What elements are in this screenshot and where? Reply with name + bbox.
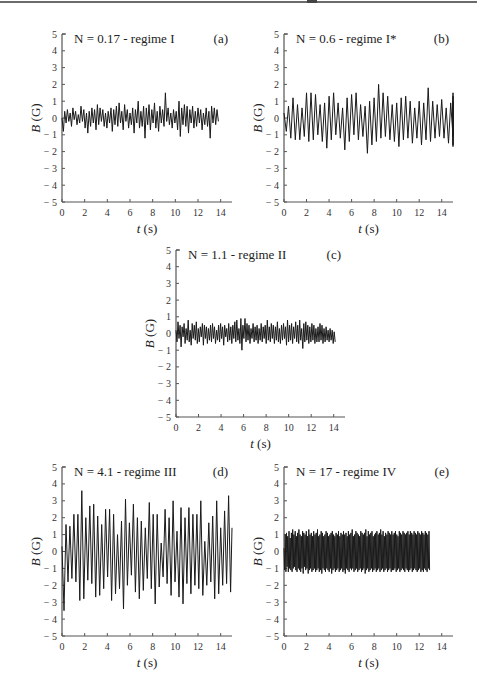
chart-panel-d: 543210− 1− 2− 3− 4− 502468101214t (s)B (…: [22, 457, 242, 676]
x-tick-label: 12: [193, 207, 203, 218]
panel-label: (e): [435, 464, 449, 479]
x-tick-label: 2: [304, 207, 309, 218]
y-tick-label: − 3: [158, 378, 171, 389]
y-tick-label: 2: [274, 79, 279, 90]
y-tick-label: 5: [274, 462, 279, 473]
y-tick-label: 1: [166, 311, 171, 322]
y-tick-label: − 4: [44, 180, 57, 191]
regime-annotation: N = 0.17 - regime I: [74, 31, 174, 46]
y-tick-label: 4: [52, 478, 57, 489]
x-tick-label: 6: [241, 422, 246, 433]
x-tick-label: 0: [60, 641, 65, 652]
regime-annotation: N = 1.1 - regime II: [188, 247, 286, 262]
x-tick-label: 8: [150, 207, 155, 218]
x-tick-label: 8: [264, 422, 269, 433]
x-tick-label: 12: [414, 207, 424, 218]
y-tick-label: 2: [52, 512, 57, 523]
x-tick-label: 0: [60, 207, 65, 218]
y-tick-label: 3: [166, 278, 171, 289]
signal-line: [62, 491, 232, 611]
panel-label: (c): [327, 247, 341, 262]
y-tick-label: − 4: [266, 614, 279, 625]
x-tick-label: 0: [282, 641, 287, 652]
y-tick-label: − 3: [266, 597, 279, 608]
chart-panel-e: 543210− 1− 2− 3− 4− 502468101214t (s)B (…: [244, 457, 463, 676]
y-axis-title: B (G): [250, 103, 265, 132]
y-axis-title: B (G): [28, 103, 43, 132]
x-tick-label: 10: [170, 641, 180, 652]
y-tick-label: − 2: [44, 580, 57, 591]
x-tick-label: 12: [414, 641, 424, 652]
y-tick-label: − 3: [266, 163, 279, 174]
x-tick-label: 4: [327, 207, 332, 218]
panel-label: (a): [214, 31, 228, 46]
x-tick-label: 6: [349, 207, 354, 218]
x-tick-label: 8: [372, 641, 377, 652]
y-tick-label: 0: [274, 113, 279, 124]
y-tick-label: 2: [166, 295, 171, 306]
y-tick-label: 3: [274, 495, 279, 506]
y-tick-label: − 5: [266, 197, 279, 208]
y-tick-label: − 3: [44, 597, 57, 608]
y-tick-label: − 4: [158, 395, 171, 406]
y-tick-label: − 2: [44, 146, 57, 157]
x-tick-label: 2: [82, 207, 87, 218]
y-axis-title: B (G): [142, 319, 157, 348]
signal-line: [284, 84, 453, 153]
y-tick-label: − 2: [158, 361, 171, 372]
x-axis-title: t (s): [358, 221, 379, 236]
x-tick-label: 10: [284, 422, 294, 433]
x-tick-label: 10: [170, 207, 180, 218]
y-tick-label: 1: [274, 529, 279, 540]
y-tick-label: 1: [52, 96, 57, 107]
y-tick-label: 3: [52, 495, 57, 506]
y-tick-label: 0: [52, 113, 57, 124]
x-axis-title: t (s): [137, 221, 158, 236]
regime-annotation: N = 0.6 - regime I*: [296, 31, 396, 46]
y-tick-label: 5: [166, 245, 171, 256]
x-tick-label: 14: [437, 641, 447, 652]
y-tick-label: 1: [52, 529, 57, 540]
x-tick-label: 2: [304, 641, 309, 652]
y-tick-label: 0: [166, 328, 171, 339]
x-tick-label: 8: [150, 641, 155, 652]
x-tick-label: 4: [105, 641, 110, 652]
x-tick-label: 12: [306, 422, 316, 433]
y-tick-label: 4: [166, 261, 171, 272]
y-tick-label: 1: [274, 96, 279, 107]
x-tick-label: 14: [216, 641, 226, 652]
y-tick-label: 0: [274, 546, 279, 557]
page-top-rule: [0, 1, 477, 3]
y-axis-title: B (G): [28, 537, 43, 566]
y-tick-label: 2: [274, 512, 279, 523]
y-tick-label: − 4: [44, 614, 57, 625]
y-tick-label: − 1: [266, 129, 279, 140]
regime-annotation: N = 17 - regime IV: [296, 464, 397, 479]
y-tick-label: 2: [52, 79, 57, 90]
y-tick-label: − 1: [266, 563, 279, 574]
y-tick-label: 5: [274, 29, 279, 40]
y-tick-label: 3: [52, 62, 57, 73]
x-tick-label: 6: [128, 207, 133, 218]
y-tick-label: − 2: [266, 580, 279, 591]
regime-annotation: N = 4.1 - regime III: [74, 464, 177, 479]
y-tick-label: 3: [274, 62, 279, 73]
y-tick-label: 0: [52, 546, 57, 557]
signal-line: [284, 530, 430, 574]
y-tick-label: 5: [52, 29, 57, 40]
y-tick-label: − 1: [44, 563, 57, 574]
x-tick-label: 10: [392, 207, 402, 218]
y-tick-label: − 4: [266, 180, 279, 191]
y-tick-label: 4: [274, 478, 279, 489]
y-tick-label: − 5: [44, 197, 57, 208]
page-header-mark: [307, 0, 317, 3]
y-tick-label: − 2: [266, 146, 279, 157]
x-tick-label: 14: [437, 207, 447, 218]
y-tick-label: − 1: [44, 129, 57, 140]
y-tick-label: − 3: [44, 163, 57, 174]
y-tick-label: 4: [52, 45, 57, 56]
x-tick-label: 14: [329, 422, 339, 433]
y-tick-label: − 5: [44, 631, 57, 642]
y-axis-title: B (G): [250, 537, 265, 566]
x-tick-label: 4: [105, 207, 110, 218]
